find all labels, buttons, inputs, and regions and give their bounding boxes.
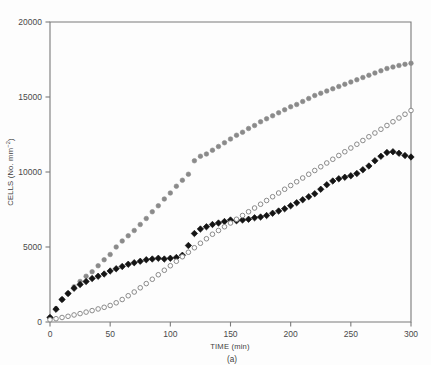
- data-point: [246, 209, 251, 214]
- data-point: [294, 102, 299, 107]
- data-point: [264, 116, 269, 121]
- data-point: [114, 301, 119, 306]
- data-point: [324, 89, 329, 94]
- x-tick-label: 50: [105, 329, 115, 339]
- data-point: [198, 154, 203, 159]
- data-point: [102, 305, 107, 310]
- data-point: [379, 68, 384, 73]
- panel-caption: (a): [227, 355, 237, 364]
- data-point: [276, 110, 281, 115]
- x-tick-label: 300: [404, 329, 418, 339]
- data-point: [300, 176, 305, 181]
- data-point: [264, 198, 269, 203]
- data-point: [355, 77, 360, 82]
- data-point: [186, 172, 191, 177]
- data-point: [409, 61, 414, 66]
- y-axis-title-base: CELLS (No. mm: [6, 148, 15, 206]
- data-point: [222, 224, 227, 229]
- y-tick-label: 15000: [18, 92, 42, 102]
- chart-background: [0, 0, 431, 365]
- data-point: [246, 126, 251, 131]
- data-point: [367, 73, 372, 78]
- data-point: [318, 91, 323, 96]
- y-tick-label: 20000: [18, 17, 42, 27]
- data-point: [324, 161, 329, 166]
- figure-panel: 05010015020025030005000100001500020000 T…: [0, 0, 431, 365]
- data-point: [228, 137, 233, 142]
- x-tick-label: 150: [223, 329, 237, 339]
- data-point: [204, 236, 209, 241]
- data-point: [312, 93, 317, 98]
- data-point: [300, 99, 305, 104]
- data-point: [168, 263, 173, 268]
- data-point: [282, 187, 287, 192]
- data-point: [210, 148, 215, 153]
- data-point: [96, 307, 101, 312]
- data-point: [409, 108, 414, 113]
- data-point: [216, 228, 221, 233]
- data-point: [216, 144, 221, 149]
- data-point: [126, 233, 131, 238]
- data-point: [240, 130, 245, 135]
- data-point: [391, 119, 396, 124]
- y-axis-title-close: ): [6, 138, 15, 141]
- y-tick-label: 10000: [18, 167, 42, 177]
- data-point: [367, 134, 372, 139]
- data-point: [258, 119, 263, 124]
- data-point: [252, 123, 257, 128]
- data-point: [192, 158, 197, 163]
- data-point: [397, 116, 402, 121]
- data-point: [156, 272, 161, 277]
- data-point: [162, 268, 167, 273]
- data-point: [174, 184, 179, 189]
- data-point: [379, 127, 384, 132]
- data-point: [66, 314, 71, 319]
- data-point: [355, 142, 360, 147]
- y-tick-label: 0: [37, 317, 42, 327]
- x-tick-label: 250: [344, 329, 358, 339]
- data-point: [90, 308, 95, 313]
- data-point: [349, 80, 354, 85]
- data-point: [330, 86, 335, 91]
- data-point: [72, 313, 77, 318]
- data-point: [240, 213, 245, 218]
- data-point: [150, 277, 155, 282]
- data-point: [337, 84, 342, 89]
- data-point: [120, 297, 125, 302]
- data-point: [270, 113, 275, 118]
- data-point: [192, 245, 197, 250]
- data-point: [78, 311, 83, 316]
- data-point: [312, 168, 317, 173]
- x-tick-label: 100: [163, 329, 177, 339]
- data-point: [90, 269, 95, 274]
- data-point: [174, 259, 179, 264]
- data-point: [270, 194, 275, 199]
- data-point: [234, 133, 239, 138]
- data-point: [150, 209, 155, 214]
- y-axis-title-exponent: −2: [5, 141, 11, 148]
- x-tick-label: 0: [48, 329, 53, 339]
- data-point: [228, 221, 233, 226]
- data-point: [397, 63, 402, 68]
- x-tick-label: 200: [284, 329, 298, 339]
- data-point: [343, 82, 348, 87]
- data-point: [403, 112, 408, 117]
- data-point: [276, 191, 281, 196]
- y-tick-label: 5000: [23, 242, 42, 252]
- data-point: [288, 183, 293, 188]
- data-point: [222, 140, 227, 145]
- data-point: [120, 239, 125, 244]
- data-point: [138, 286, 143, 291]
- data-point: [54, 316, 59, 321]
- data-point: [144, 216, 149, 221]
- data-point: [126, 293, 131, 298]
- data-point: [108, 303, 113, 308]
- data-point: [403, 62, 408, 67]
- data-point: [132, 290, 137, 295]
- x-axis-title: TIME (min): [210, 342, 250, 351]
- data-point: [385, 66, 390, 71]
- data-point: [294, 179, 299, 184]
- data-point: [391, 65, 396, 70]
- data-point: [373, 131, 378, 136]
- data-point: [343, 149, 348, 154]
